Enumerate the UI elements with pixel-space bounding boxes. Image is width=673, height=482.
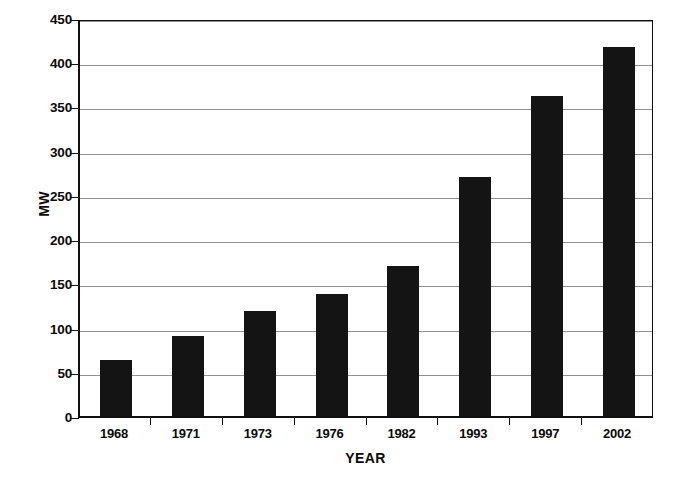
plot-area	[78, 20, 653, 418]
bar	[100, 360, 132, 416]
y-axis-tick-label: 0	[26, 411, 72, 425]
y-axis-tick-label: 250	[26, 190, 72, 204]
x-axis-tick-label-group: 19681971197319761982199319972002	[78, 427, 653, 447]
y-axis-tick-label: 50	[26, 367, 72, 381]
bar	[459, 177, 491, 416]
x-axis-tick-label: 1993	[437, 427, 509, 441]
cropped-caption-sliver	[28, 474, 448, 482]
y-axis-tick-label: 400	[26, 57, 72, 71]
y-axis-tick-label: 350	[26, 102, 72, 116]
x-axis-tick-mark	[294, 418, 295, 425]
y-axis-tick-label: 300	[26, 146, 72, 160]
x-axis-tick-mark	[222, 418, 223, 425]
y-axis-tick-label: 100	[26, 323, 72, 337]
x-axis-tick-label: 1976	[294, 427, 366, 441]
x-axis-tick-label: 1973	[222, 427, 294, 441]
bar	[603, 47, 635, 416]
bar	[531, 96, 563, 416]
bar-chart-figure: MW 050100150200250300350400450 196819711…	[0, 0, 673, 482]
bar	[316, 294, 348, 416]
x-axis-tick-mark-group	[78, 418, 653, 426]
x-axis-tick-label: 1997	[509, 427, 581, 441]
y-axis-tick-label: 200	[26, 234, 72, 248]
x-axis-tick-label: 1968	[78, 427, 150, 441]
bar	[387, 266, 419, 416]
x-axis-tick-mark	[150, 418, 151, 425]
x-axis-tick-mark	[581, 418, 582, 425]
y-axis-tick-label: 150	[26, 279, 72, 293]
y-axis-tick-label-group: 050100150200250300350400450	[26, 12, 72, 422]
x-axis-tick-label: 2002	[581, 427, 653, 441]
x-axis-tick-label: 1982	[365, 427, 437, 441]
x-axis-tick-mark	[437, 418, 438, 425]
bar-series-layer	[80, 21, 652, 416]
bar	[244, 311, 276, 416]
bar	[172, 336, 204, 416]
x-axis-tick-mark	[366, 418, 367, 425]
x-axis-tick-label: 1971	[150, 427, 222, 441]
y-axis-tick-label: 450	[26, 13, 72, 27]
x-axis-tick-mark	[509, 418, 510, 425]
x-axis-title: YEAR	[78, 450, 653, 466]
